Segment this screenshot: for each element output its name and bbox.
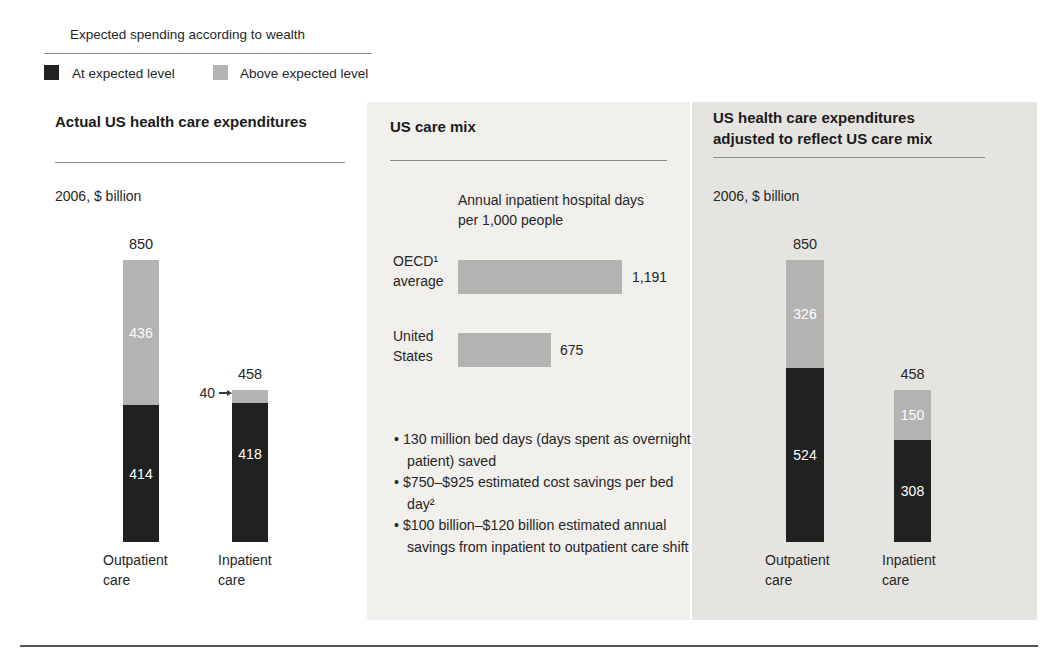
hbar-chart-header: Annual inpatient hospital days per 1,000… [458,190,644,230]
bar-total-label: 850 [129,236,153,252]
above-expected-callout: 40 [199,385,232,401]
hbar-value-united-states: 675 [560,342,583,358]
bullet-bed-days-saved: 130 million bed days (days spent as over… [394,429,694,472]
category-label-inpatient: Inpatient care [882,550,936,590]
panel-right-title: US health care expenditures adjusted to … [713,107,1003,149]
legend-label-at-expected: At expected level [72,66,175,81]
panel-adjusted-expenditures [692,102,1037,620]
segment-at-expected: 418 [232,403,268,542]
bullet-cost-per-bed-day: $750–$925 estimated cost savings per bed… [394,472,694,515]
hbar-label-united-states: United States [393,326,433,366]
bar-total-label: 458 [238,366,262,382]
bar-total-label: 458 [900,366,924,382]
savings-bullet-list: 130 million bed days (days spent as over… [394,429,694,558]
bar-outpatient-actual: 850 436 414 [123,260,159,542]
bar-total-label: 850 [793,236,817,252]
hbar-value-oecd: 1,191 [632,269,667,285]
category-label-outpatient: Outpatient care [765,550,830,590]
panel-right-unit-label: 2006, $ billion [713,188,799,204]
segment-value-label: 150 [901,407,924,423]
category-label-inpatient: Inpatient care [218,550,272,590]
segment-value-label: 436 [129,325,152,341]
panel-mid-divider [390,160,667,161]
legend-divider [44,53,372,54]
segment-above-expected: 326 [786,260,824,368]
segment-above-expected: 150 [894,390,931,440]
segment-above-expected: 436 [123,260,159,405]
legend-swatch-above-expected-icon [213,65,228,80]
footer-rule [20,645,1038,647]
hbar-label-oecd-average: OECD¹ average [393,251,444,291]
segment-value-label: 414 [129,466,152,482]
bar-inpatient-actual: 458 40 418 [232,390,268,542]
callout-value-label: 40 [199,385,215,401]
hbar-oecd-average [458,260,622,294]
segment-at-expected: 524 [786,368,824,542]
segment-at-expected: 414 [123,405,159,542]
segment-value-label: 326 [793,306,816,322]
legend-title: Expected spending according to wealth [70,27,305,42]
segment-value-label: 308 [901,483,924,499]
bullet-annual-savings: $100 billion–$120 billion estimated annu… [394,515,694,558]
segment-value-label: 524 [793,447,816,463]
panel-left-unit-label: 2006, $ billion [55,188,141,204]
panel-right-divider [713,157,985,158]
segment-value-label: 418 [238,446,261,462]
bar-outpatient-adjusted: 850 326 524 [786,260,824,542]
legend-swatch-at-expected-icon [44,65,59,80]
panel-mid-title: US care mix [390,116,680,137]
segment-above-expected [232,390,268,403]
right-arrow-icon [215,390,232,396]
segment-at-expected: 308 [894,440,931,542]
legend-label-above-expected: Above expected level [240,66,368,81]
bar-inpatient-adjusted: 458 150 308 [894,390,931,542]
panel-left-title: Actual US health care expenditures [55,111,355,132]
category-label-outpatient: Outpatient care [103,550,168,590]
panel-left-divider [55,162,345,163]
hbar-united-states [458,333,551,367]
exhibit-page: Expected spending according to wealth At… [0,0,1040,656]
